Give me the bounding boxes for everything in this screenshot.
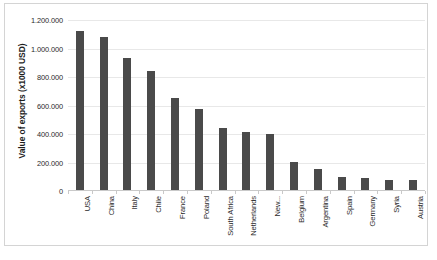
chart-frame: Value of exports (x1000 USD) 1.200.0001.… [4, 3, 428, 246]
bar-slot [401, 20, 425, 191]
x-tick-label: Austria [416, 196, 425, 219]
y-tick-label: 800.000 [37, 73, 63, 82]
y-tick-label: 1.000.000 [31, 44, 63, 53]
bar-slot [235, 20, 259, 191]
x-tick-label: China [107, 196, 116, 215]
x-tick-label: South Africa [226, 196, 235, 236]
bar-slot [68, 20, 92, 191]
x-label-slot: Italy [116, 196, 140, 252]
x-tick-label: USA [83, 196, 92, 211]
x-tick-mark [68, 191, 69, 194]
bar-slot [258, 20, 282, 191]
x-tick-mark [116, 191, 117, 194]
x-tick-mark [425, 191, 426, 194]
x-label-slot: China [92, 196, 116, 252]
x-label-slot: Chile [139, 196, 163, 252]
bar[interactable] [314, 169, 322, 191]
bar-slot [354, 20, 378, 191]
bar-slot [377, 20, 401, 191]
bar-slot [139, 20, 163, 191]
x-label-slot: Argentina [306, 196, 330, 252]
x-label-slot: Syria [377, 196, 401, 252]
x-tick-mark [306, 191, 307, 194]
y-axis-title: Value of exports (x1000 USD) [17, 26, 27, 176]
x-tick-label: Syria [392, 196, 401, 213]
x-label-slot: South Africa [211, 196, 235, 252]
x-tick-mark [235, 191, 236, 194]
x-axis-tick-labels: USAChinaItalyChileFrancePolandSouth Afri… [68, 191, 425, 251]
bar-slot [163, 20, 187, 191]
bar[interactable] [242, 132, 250, 191]
bar-slot [282, 20, 306, 191]
bar[interactable] [219, 128, 227, 191]
x-label-slot: Netherlands [235, 196, 259, 252]
y-tick-label: 1.200.000 [31, 16, 63, 25]
x-tick-mark [92, 191, 93, 194]
bar[interactable] [123, 58, 131, 191]
x-label-slot: Spain [330, 196, 354, 252]
x-tick-mark [354, 191, 355, 194]
y-tick-label: 0 [59, 187, 63, 196]
bar-slot [306, 20, 330, 191]
bar-slot [116, 20, 140, 191]
bar[interactable] [266, 134, 274, 191]
bar[interactable] [338, 177, 346, 191]
x-label-slot: France [163, 196, 187, 252]
x-tick-label: Poland [202, 196, 211, 219]
x-label-slot: Germany [354, 196, 378, 252]
x-tick-mark [401, 191, 402, 194]
x-tick-label: Belgium [297, 196, 306, 223]
x-tick-mark [211, 191, 212, 194]
y-tick-label: 400.000 [37, 130, 63, 139]
x-tick-mark [377, 191, 378, 194]
bar[interactable] [100, 37, 108, 191]
x-label-slot: New... [258, 196, 282, 252]
y-tick-label: 600.000 [37, 101, 63, 110]
bar[interactable] [290, 162, 298, 191]
x-tick-label: France [178, 196, 187, 219]
x-tick-label: Germany [368, 196, 377, 227]
x-tick-mark [139, 191, 140, 194]
bar[interactable] [76, 31, 84, 191]
bar[interactable] [171, 98, 179, 191]
bar-slot [211, 20, 235, 191]
x-label-slot: Austria [401, 196, 425, 252]
bar[interactable] [147, 71, 155, 191]
x-tick-mark [282, 191, 283, 194]
x-tick-label: Argentina [321, 196, 330, 228]
x-tick-label: New... [273, 196, 282, 217]
x-tick-label: Spain [345, 196, 354, 215]
x-tick-mark [187, 191, 188, 194]
bar-series [68, 20, 425, 191]
bar-slot [92, 20, 116, 191]
x-tick-mark [163, 191, 164, 194]
x-tick-label: Netherlands [249, 196, 258, 236]
x-tick-label: Chile [154, 196, 163, 213]
x-tick-mark [330, 191, 331, 194]
bar-slot [187, 20, 211, 191]
x-label-slot: Poland [187, 196, 211, 252]
bar-slot [330, 20, 354, 191]
x-tick-mark [258, 191, 259, 194]
bar[interactable] [195, 109, 203, 191]
x-tick-label: Italy [130, 196, 139, 209]
plot-area: 1.200.0001.000.000800.000600.000400.0002… [68, 20, 425, 191]
y-tick-label: 200.000 [37, 158, 63, 167]
x-label-slot: USA [68, 196, 92, 252]
x-label-slot: Belgium [282, 196, 306, 252]
